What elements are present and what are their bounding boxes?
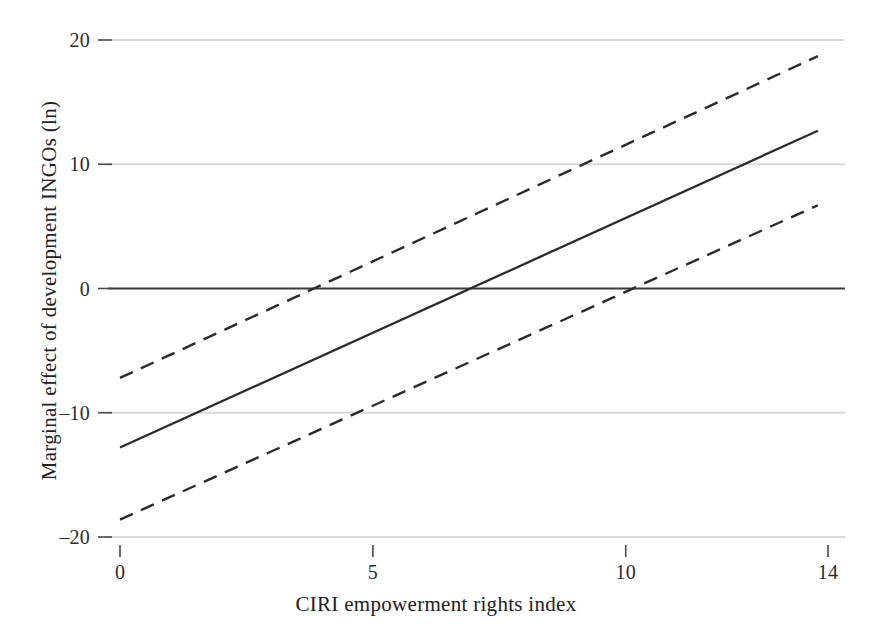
x-tick-label: 10 bbox=[616, 561, 636, 584]
x-tick-label: 14 bbox=[818, 561, 838, 584]
x-axis-title: CIRI empowerment rights index bbox=[0, 592, 872, 617]
y-axis-title-container: Marginal effect of development INGOs (ln… bbox=[30, 0, 70, 580]
x-tick-marks-group bbox=[120, 545, 828, 557]
x-tick-label: 0 bbox=[115, 561, 125, 584]
y-axis-title: Marginal effect of development INGOs (ln… bbox=[38, 100, 63, 480]
series-line bbox=[120, 205, 818, 519]
chart-plot-area bbox=[0, 0, 872, 644]
x-tick-label: 5 bbox=[368, 561, 378, 584]
chart-figure: 20100–10–20 051014 Marginal effect of de… bbox=[0, 0, 872, 644]
series-line bbox=[120, 56, 818, 378]
